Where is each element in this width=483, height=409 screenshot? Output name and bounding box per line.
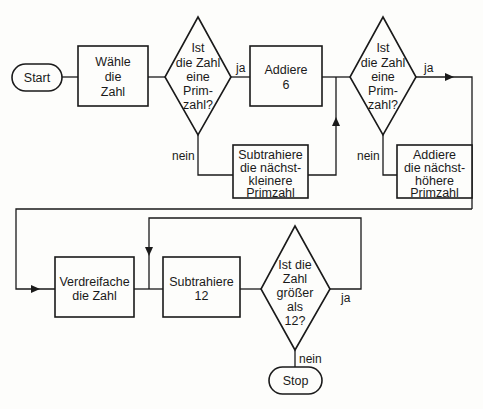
svg-text:Primzahl: Primzahl	[246, 186, 295, 200]
svg-text:6: 6	[283, 78, 290, 92]
svg-text:größer: größer	[277, 286, 314, 300]
svg-text:die nächst-: die nächst-	[404, 161, 465, 175]
arrow-right-icon	[31, 285, 40, 293]
label-no: nein	[357, 149, 380, 163]
svg-text:die Zahl: die Zahl	[361, 56, 405, 70]
label-no: nein	[172, 149, 195, 163]
subtract-12-box: Subtrahiere 12	[163, 257, 240, 317]
is-prime-decision-2: Ist die Zahl eine Prim- zahl?	[350, 17, 416, 135]
svg-text:Addiere: Addiere	[413, 148, 456, 162]
svg-text:zahl?: zahl?	[183, 98, 213, 112]
triple-number-box: Verdreifache die Zahl	[55, 257, 134, 317]
subtract-previous-prime-box: Subtrahiere die nächst- kleinere Primzah…	[233, 145, 308, 200]
svg-text:Primzahl: Primzahl	[410, 186, 459, 200]
add-next-prime-box: Addiere die nächst- höhere Primzahl	[397, 145, 472, 200]
label-yes: ja	[340, 291, 351, 305]
svg-text:eine: eine	[186, 70, 210, 84]
edge-prime2-addnext	[383, 135, 397, 175]
greater-than-12-decision: Ist die Zahl größer als 12?	[261, 226, 330, 350]
svg-text:Stop: Stop	[283, 374, 309, 388]
svg-text:Ist: Ist	[376, 41, 390, 55]
arrow-down-icon	[145, 247, 153, 256]
svg-text:Start: Start	[24, 71, 51, 85]
svg-text:Prim-: Prim-	[183, 84, 213, 98]
svg-text:als: als	[287, 300, 303, 314]
arrow-up-icon	[332, 117, 340, 126]
svg-text:Ist die: Ist die	[278, 258, 311, 272]
svg-text:Wähle: Wähle	[95, 55, 130, 69]
label-yes: ja	[235, 61, 246, 75]
svg-text:Zahl: Zahl	[283, 272, 307, 286]
label-yes: ja	[423, 61, 434, 75]
svg-text:die nächst-: die nächst-	[240, 161, 301, 175]
is-prime-decision-1: Ist die Zahl eine Prim- zahl?	[165, 17, 231, 135]
svg-text:Ist: Ist	[191, 41, 205, 55]
svg-text:12: 12	[195, 289, 209, 303]
choose-number-box: Wähle die Zahl	[78, 46, 148, 106]
edge-prime1-subprev	[198, 135, 233, 175]
svg-text:die Zahl: die Zahl	[72, 289, 116, 303]
flowchart: Start Wähle die Zahl Ist die Zahl eine P…	[0, 0, 483, 409]
start-node: Start	[12, 64, 62, 91]
add-6-box: Addiere 6	[250, 46, 322, 106]
svg-text:die: die	[105, 70, 122, 84]
svg-text:zahl?: zahl?	[368, 98, 398, 112]
svg-text:Addiere: Addiere	[264, 63, 307, 77]
svg-text:12?: 12?	[285, 314, 306, 328]
svg-text:Verdreifache: Verdreifache	[59, 275, 129, 289]
svg-text:Zahl: Zahl	[101, 85, 125, 99]
label-no: nein	[299, 352, 322, 366]
svg-text:Subtrahiere: Subtrahiere	[169, 275, 234, 289]
stop-node: Stop	[269, 367, 322, 394]
svg-text:die Zahl: die Zahl	[176, 56, 220, 70]
svg-text:Subtrahiere: Subtrahiere	[238, 148, 303, 162]
svg-text:Prim-: Prim-	[368, 84, 398, 98]
arrow-right-icon	[445, 73, 454, 81]
svg-text:eine: eine	[371, 70, 395, 84]
